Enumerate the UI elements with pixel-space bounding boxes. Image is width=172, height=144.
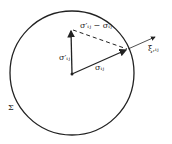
label-difference: σ′ᵢⱼ − σᵢⱼ bbox=[80, 21, 112, 30]
label-xi: ξ,ᵢⱼ bbox=[148, 44, 159, 53]
label-surface: Σ bbox=[8, 103, 14, 112]
label-sigma-prime: σ′ᵢⱼ bbox=[59, 53, 70, 62]
sigma-prime-arrow bbox=[71, 31, 72, 74]
label-sigma: σᵢⱼ bbox=[95, 63, 104, 72]
yield-surface-diagram: σ′ᵢⱼ σ′ᵢⱼ − σᵢⱼ σᵢⱼ ξ,ᵢⱼ Σ bbox=[0, 0, 172, 144]
